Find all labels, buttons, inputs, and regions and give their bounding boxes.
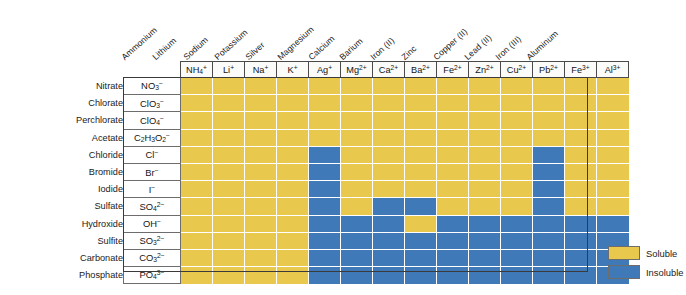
solubility-cell bbox=[437, 146, 469, 163]
solubility-cell bbox=[501, 267, 533, 284]
solubility-cell bbox=[437, 129, 469, 146]
cation-symbol-header: Al3+ bbox=[597, 62, 629, 78]
solubility-cell bbox=[437, 181, 469, 198]
solubility-cell bbox=[277, 249, 309, 266]
solubility-cell bbox=[309, 95, 341, 112]
solubility-cell bbox=[501, 78, 533, 95]
solubility-cell bbox=[565, 249, 597, 266]
solubility-cell bbox=[501, 181, 533, 198]
cation-symbol-header: NH4+ bbox=[181, 62, 213, 78]
cation-symbol-header: Ca2+ bbox=[373, 62, 405, 78]
solubility-cell bbox=[437, 267, 469, 284]
cation-symbol-header: Fe2+ bbox=[437, 62, 469, 78]
solubility-cell bbox=[373, 267, 405, 284]
solubility-cell bbox=[533, 198, 565, 215]
cation-name-lead-ii: Lead (II) bbox=[462, 33, 493, 62]
cation-name-iron-iii: Iron (III) bbox=[493, 34, 523, 62]
solubility-cell bbox=[373, 129, 405, 146]
solubility-cell bbox=[437, 249, 469, 266]
solubility-cell bbox=[565, 163, 597, 180]
solubility-cell bbox=[181, 163, 213, 180]
solubility-cell bbox=[405, 95, 437, 112]
anion-name-label: Chloride bbox=[60, 146, 124, 163]
solubility-cell bbox=[213, 146, 245, 163]
anion-name-label: Chlorate bbox=[60, 95, 124, 112]
solubility-table-wrapper: NH4+Li+Na+K+Ag+Mg2+Ca2+Ba2+Fe2+Zn2+Cu2+P… bbox=[60, 61, 629, 284]
solubility-cell bbox=[565, 267, 597, 284]
solubility-cell bbox=[565, 232, 597, 249]
solubility-cell bbox=[597, 129, 629, 146]
solubility-cell bbox=[309, 215, 341, 232]
solubility-cell bbox=[405, 163, 437, 180]
solubility-cell bbox=[597, 163, 629, 180]
cation-name-lithium: Lithium bbox=[150, 36, 178, 62]
solubility-cell bbox=[309, 198, 341, 215]
header-spacer-name bbox=[60, 62, 124, 78]
anion-formula-box: CO32− bbox=[124, 249, 181, 266]
solubility-cell bbox=[405, 198, 437, 215]
cation-name-silver: Silver bbox=[244, 40, 267, 62]
anion-formula-box: NO3− bbox=[124, 78, 181, 95]
solubility-cell bbox=[309, 181, 341, 198]
table-row: SulfateSO42− bbox=[60, 198, 629, 215]
solubility-cell bbox=[277, 146, 309, 163]
solubility-cell bbox=[533, 78, 565, 95]
table-row: ChlorideCl− bbox=[60, 146, 629, 163]
solubility-cell bbox=[309, 232, 341, 249]
solubility-cell bbox=[597, 146, 629, 163]
cation-symbol-header: K+ bbox=[277, 62, 309, 78]
solubility-table: NH4+Li+Na+K+Ag+Mg2+Ca2+Ba2+Fe2+Zn2+Cu2+P… bbox=[60, 61, 629, 284]
solubility-chart: AmmoniumLithiumSodiumPotassiumSilverMagn… bbox=[0, 0, 686, 295]
anion-formula-box: Cl− bbox=[124, 146, 181, 163]
solubility-cell bbox=[245, 215, 277, 232]
solubility-cell bbox=[597, 78, 629, 95]
solubility-cell bbox=[309, 249, 341, 266]
solubility-cell bbox=[213, 267, 245, 284]
anion-name-label: Iodide bbox=[60, 181, 124, 198]
solubility-cell bbox=[373, 78, 405, 95]
solubility-cell bbox=[469, 249, 501, 266]
solubility-cell bbox=[245, 112, 277, 129]
solubility-cell bbox=[245, 181, 277, 198]
solubility-cell bbox=[309, 267, 341, 284]
solubility-cell bbox=[501, 163, 533, 180]
solubility-cell bbox=[565, 215, 597, 232]
solubility-cell bbox=[341, 78, 373, 95]
cation-name-zinc: Zinc bbox=[400, 43, 419, 62]
solubility-cell bbox=[277, 198, 309, 215]
solubility-cell bbox=[469, 181, 501, 198]
solubility-cell bbox=[181, 249, 213, 266]
cation-symbol-header: Ba2+ bbox=[405, 62, 437, 78]
solubility-cell bbox=[213, 181, 245, 198]
solubility-cell bbox=[373, 112, 405, 129]
solubility-cell bbox=[405, 249, 437, 266]
solubility-cell bbox=[277, 267, 309, 284]
solubility-cell bbox=[277, 232, 309, 249]
table-body: NitrateNO3−ChlorateClO3−PerchlorateClO4−… bbox=[60, 78, 629, 284]
cation-name-calcium: Calcium bbox=[306, 33, 336, 62]
solubility-cell bbox=[501, 129, 533, 146]
solubility-cell bbox=[597, 181, 629, 198]
solubility-cell bbox=[597, 95, 629, 112]
solubility-cell bbox=[341, 129, 373, 146]
cation-symbol-header: Li+ bbox=[213, 62, 245, 78]
solubility-cell bbox=[213, 163, 245, 180]
solubility-cell bbox=[533, 163, 565, 180]
cation-symbol-header: Pb2+ bbox=[533, 62, 565, 78]
solubility-cell bbox=[373, 215, 405, 232]
solubility-cell bbox=[437, 163, 469, 180]
solubility-cell bbox=[533, 215, 565, 232]
anion-name-label: Nitrate bbox=[60, 78, 124, 95]
solubility-cell bbox=[181, 232, 213, 249]
solubility-cell bbox=[245, 95, 277, 112]
solubility-cell bbox=[565, 198, 597, 215]
solubility-cell bbox=[501, 146, 533, 163]
solubility-cell bbox=[533, 95, 565, 112]
solubility-cell bbox=[277, 95, 309, 112]
solubility-cell bbox=[181, 215, 213, 232]
solubility-cell bbox=[213, 232, 245, 249]
solubility-cell bbox=[437, 95, 469, 112]
table-row: PhosphatePO43− bbox=[60, 267, 629, 284]
anion-formula-box: C2H3O2− bbox=[124, 129, 181, 146]
solubility-cell bbox=[277, 129, 309, 146]
